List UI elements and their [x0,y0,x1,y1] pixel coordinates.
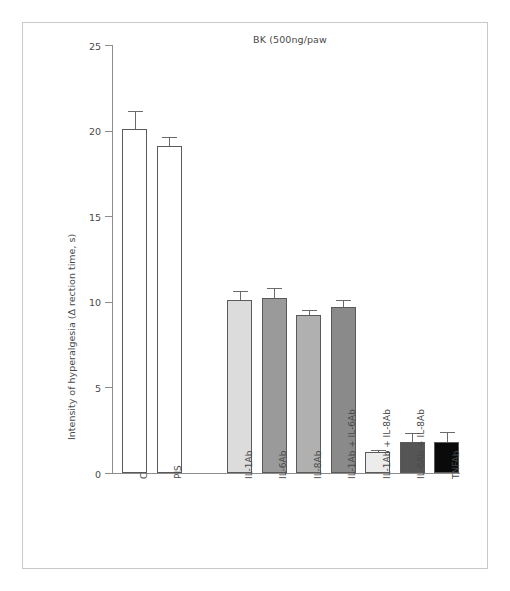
y-axis-tick-label: 25 [89,40,101,51]
error-bar-cap [336,300,351,301]
y-axis-tick: 0 [105,473,112,474]
x-axis-tick-label: TNFAb [451,451,461,479]
bar [262,298,287,473]
chart-title: BK (500ng/paw [140,34,440,45]
x-axis-tick-label: C [139,473,149,479]
bar [122,129,147,473]
bar [157,146,182,473]
y-axis-tick-label: 10 [89,297,101,308]
error-bar-stem [412,433,413,442]
error-bar-cap [233,291,248,292]
error-bar-stem [447,432,448,442]
bar [227,300,252,473]
error-bar-cap [302,310,317,311]
y-axis-tick-label: 5 [95,382,101,393]
y-axis-tick-label: 20 [89,126,101,137]
y-axis-tick: 25 [105,45,112,46]
error-bar-stem [135,111,136,129]
error-bar-cap [267,288,282,289]
x-axis-tick-label: IL-1Ab [244,451,254,479]
y-axis-tick: 15 [105,216,112,217]
x-axis-tick-label: IL-1Ab + IL-6Ab [347,409,357,479]
y-axis-tick-label: 15 [89,211,101,222]
error-bar-cap [128,111,143,112]
error-bar-stem [274,288,275,298]
y-axis-tick: 20 [105,131,112,132]
x-axis-tick-label: IL-1Ab + IL-8Ab [382,409,392,479]
figure-canvas: BK (500ng/paw 0510152025 CPISIL-1AbIL-6A… [0,0,510,591]
x-axis-tick-label: IL-8Ab [313,451,323,479]
bar [296,315,321,473]
error-bar-stem [169,137,170,146]
y-axis-line [112,45,113,473]
y-axis-tick: 5 [105,387,112,388]
x-axis-tick-label: PIS [173,465,183,479]
error-bar-stem [240,291,241,300]
x-axis-tick-label: IL-6Ab + IL-8Ab [416,409,426,479]
y-axis-title: Intensity of hyperalgesia (Δ rection tim… [66,234,77,440]
x-axis-tick-label: IL-6Ab [278,451,288,479]
error-bar-cap [162,137,177,138]
chart-plot-area: BK (500ng/paw 0510152025 CPISIL-1AbIL-6A… [0,0,510,591]
y-axis-tick: 10 [105,302,112,303]
y-axis-tick-label: 0 [95,468,101,479]
error-bar-stem [343,300,344,307]
error-bar-cap [440,432,455,433]
